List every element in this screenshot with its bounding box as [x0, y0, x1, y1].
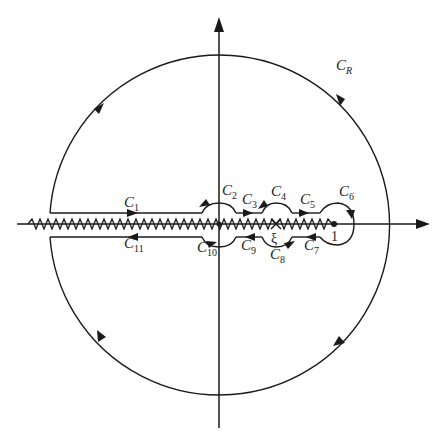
label-C8: C8	[270, 246, 285, 265]
label-C2: C2	[222, 182, 237, 201]
cr-arrow-icon	[333, 336, 345, 346]
label-C7: C7	[304, 237, 319, 256]
cr-arrow-icon	[336, 94, 345, 106]
label-CR: CR	[336, 57, 352, 76]
label-C4: C4	[271, 183, 286, 202]
point-one	[331, 221, 337, 227]
c5-arrow-icon	[299, 209, 309, 217]
contour-diagram: CR C1 C2 C3 C4 C5 C6 C7 C8 C9 C10 C11 ξ …	[0, 0, 445, 444]
label-xi: ξ	[271, 231, 277, 246]
y-axis-arrow-icon	[214, 17, 224, 32]
origin-point	[217, 222, 222, 227]
cr-arrow-icon	[97, 330, 106, 342]
c4-arrow-icon	[258, 200, 268, 209]
label-C5: C5	[300, 191, 315, 210]
label-C11: C11	[124, 235, 144, 254]
label-C1: C1	[124, 194, 139, 213]
x-axis-arrow-icon	[416, 219, 430, 229]
label-one: 1	[331, 229, 338, 244]
c8-arrow-icon	[284, 241, 295, 249]
label-C3: C3	[242, 191, 257, 210]
c3-arrow-icon	[243, 209, 253, 217]
label-C6: C6	[339, 183, 354, 202]
